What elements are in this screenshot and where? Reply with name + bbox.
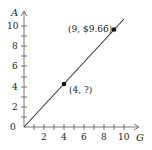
x-tick-label: 6: [81, 132, 87, 142]
x-tick-label: 8: [101, 132, 107, 142]
data-point-9: [112, 27, 117, 32]
y-tick-label: 10: [7, 21, 19, 31]
proportional-line: [24, 19, 124, 127]
x-axis-title: G: [136, 132, 144, 143]
annotation-point-4: (4, ?): [69, 85, 92, 95]
chart: A G 0 2 4 6 8 10 2 4 6 8 10 (4, ?) (9, $…: [0, 0, 152, 150]
x-tick-label: 2: [41, 132, 47, 142]
annotation-point-9: (9, $9.66): [68, 24, 112, 34]
y-tick-label: 4: [12, 82, 18, 92]
x-tick-label: 10: [118, 132, 130, 142]
y-tick-label: 8: [12, 41, 18, 51]
data-point-4: [62, 82, 67, 87]
y-axis-title: A: [10, 7, 18, 18]
origin-label: 0: [10, 122, 16, 132]
x-tick-label: 4: [61, 132, 67, 142]
y-tick-label: 2: [12, 102, 18, 112]
y-tick-label: 6: [12, 61, 18, 71]
